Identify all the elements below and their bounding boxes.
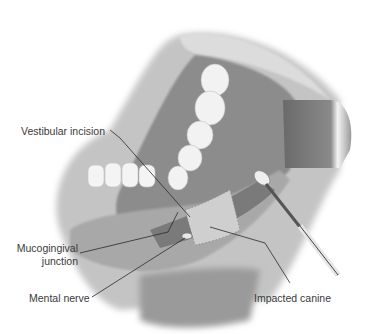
surgical-illustration <box>0 0 375 334</box>
label-impacted-canine: Impacted canine <box>254 292 331 304</box>
label-mucogingival-junction-line2: junction <box>16 255 78 267</box>
label-mental-nerve: Mental nerve <box>29 292 90 304</box>
label-mucogingival-junction-line1: Mucogingival <box>16 242 78 254</box>
label-vestibular-incision: Vestibular incision <box>21 125 105 137</box>
cheek-retractor <box>283 100 351 168</box>
